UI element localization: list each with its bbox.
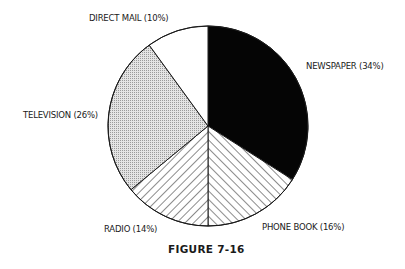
label-radio: RADIO (14%) [104, 224, 157, 234]
label-direct-mail: DIRECT MAIL (10%) [89, 13, 168, 23]
label-television: TELEVISION (26%) [23, 110, 98, 120]
label-phone-book: PHONE BOOK (16%) [262, 222, 344, 232]
label-newspaper: NEWSPAPER (34%) [306, 61, 384, 71]
figure-caption: FIGURE 7-16 [168, 243, 245, 255]
